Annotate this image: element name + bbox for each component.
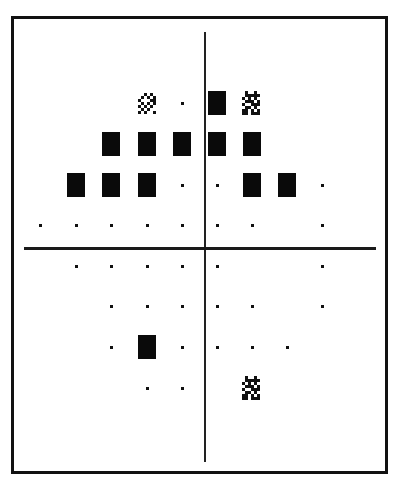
solid-icon xyxy=(237,170,267,200)
dot-icon xyxy=(307,251,337,281)
dot-icon xyxy=(237,291,267,321)
dot-icon xyxy=(96,291,126,321)
four-dot-icon xyxy=(272,129,302,159)
solid-icon xyxy=(167,129,197,159)
dot-icon xyxy=(61,251,91,281)
checker-icon xyxy=(237,373,267,403)
dot-icon xyxy=(96,332,126,362)
dot-icon xyxy=(202,332,232,362)
solid-icon xyxy=(96,170,126,200)
dot-icon xyxy=(132,291,162,321)
dot-icon xyxy=(167,210,197,240)
dot-icon xyxy=(237,332,267,362)
dot-icon xyxy=(202,210,232,240)
solid-icon xyxy=(132,129,162,159)
dot-icon xyxy=(307,291,337,321)
solid-icon xyxy=(202,88,232,118)
dot-icon xyxy=(132,251,162,281)
dot-icon xyxy=(307,170,337,200)
horizontal-axis-line xyxy=(24,247,376,250)
dot-icon xyxy=(307,210,337,240)
dot-icon xyxy=(25,210,55,240)
dot-icon xyxy=(272,332,302,362)
dot-icon xyxy=(132,210,162,240)
four-dot-icon xyxy=(272,291,302,321)
dot-icon xyxy=(61,210,91,240)
solid-icon xyxy=(132,170,162,200)
solid-icon xyxy=(61,170,91,200)
solid-icon xyxy=(237,129,267,159)
dot-icon xyxy=(167,332,197,362)
diagonal-hatch-icon xyxy=(132,88,162,118)
dot-icon xyxy=(167,170,197,200)
dot-icon xyxy=(132,373,162,403)
four-dot-icon xyxy=(61,291,91,321)
solid-icon xyxy=(96,129,126,159)
four-dot-icon xyxy=(237,251,267,281)
four-dot-icon xyxy=(25,251,55,281)
dot-icon xyxy=(167,373,197,403)
dot-icon xyxy=(167,251,197,281)
solid-icon xyxy=(202,129,232,159)
solid-icon xyxy=(272,170,302,200)
four-dot-icon xyxy=(202,373,232,403)
dot-icon xyxy=(167,88,197,118)
chart-frame xyxy=(11,16,388,474)
dot-icon xyxy=(237,210,267,240)
checker-icon xyxy=(237,88,267,118)
dot-icon xyxy=(167,291,197,321)
dot-icon xyxy=(96,210,126,240)
dot-icon xyxy=(202,251,232,281)
dot-icon xyxy=(96,251,126,281)
dot-icon xyxy=(202,291,232,321)
solid-icon xyxy=(132,332,162,362)
dot-icon xyxy=(202,170,232,200)
